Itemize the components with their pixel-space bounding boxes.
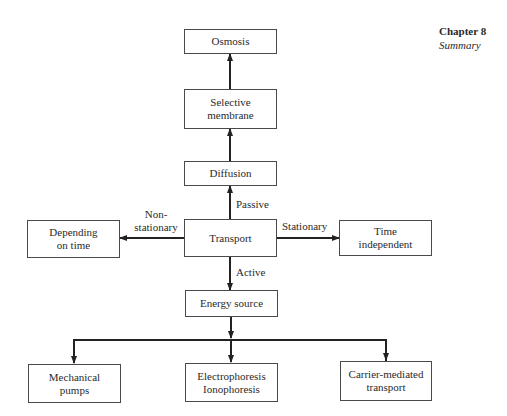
node-carrier-mediated: Carrier-mediated transport	[340, 361, 432, 401]
chapter-heading: Chapter 8 Summary	[439, 24, 486, 52]
chapter-subtitle: Summary	[439, 38, 486, 52]
label-active: Active	[236, 266, 265, 279]
label-passive: Passive	[236, 198, 269, 211]
node-selective-membrane: Selective membrane	[184, 89, 277, 129]
node-osmosis: Osmosis	[184, 29, 277, 54]
chapter-number: Chapter 8	[439, 24, 486, 38]
node-diffusion: Diffusion	[184, 161, 277, 186]
node-depending-on-time: Depending on time	[27, 220, 120, 258]
node-time-independent: Time independent	[339, 220, 432, 256]
label-stationary: Stationary	[282, 220, 327, 233]
node-transport: Transport	[184, 219, 277, 257]
node-mechanical-pumps: Mechanical pumps	[28, 364, 121, 403]
node-electrophoresis: Electrophoresis Ionophoresis	[185, 363, 278, 402]
node-energy-source: Energy source	[185, 290, 278, 317]
label-non-stationary: Non- stationary	[128, 208, 184, 234]
